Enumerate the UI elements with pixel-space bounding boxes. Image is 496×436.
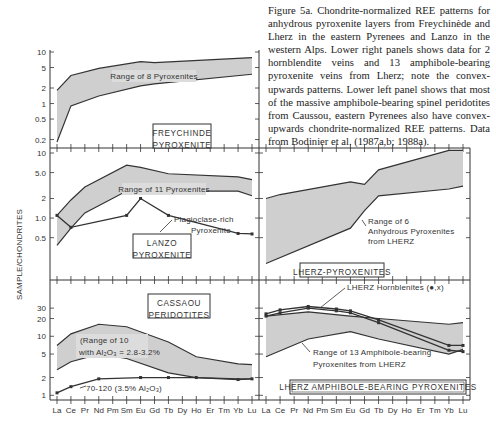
x-tick-label: Sm [121,406,133,415]
y-axis-label: SAMPLE/CHONDRITES [15,209,24,300]
x-tick-label: Ce [275,406,286,415]
annotation: Range of 11 Pyroxenites [118,185,210,194]
x-tick-label: Sm [330,406,342,415]
annotation: from LHERZ [368,237,414,246]
x-tick-label: Nd [303,406,313,415]
y-tick-label: 10 [37,149,46,158]
x-tick-label: Yb [444,406,454,415]
annotation: Pyroxenites from LHERZ [313,360,406,369]
annotation: Range of 6 [368,217,409,226]
x-tick-label: Er [417,406,425,415]
annotation: Plagioclase-rich [174,215,234,224]
y-tick-label: 2 [42,374,47,383]
y-tick-label: 10 [37,48,46,57]
svg-text:LANZO: LANZO [147,239,177,248]
x-tick-label: La [262,406,271,415]
panel-middle-right [266,150,463,263]
x-tick-label: Tb [164,406,174,415]
y-tick-label: 2 [42,84,47,93]
ree-figure: 105210.50.2105.021.00.5302010521SAMPLE/C… [0,0,496,436]
svg-text:PYROXENITE: PYROXENITE [133,251,192,260]
svg-text:FREYCHINDE: FREYCHINDE [152,129,211,138]
x-tick-label: Pr [290,406,298,415]
y-tick-label: 20 [37,315,46,324]
x-tick-label: Eu [346,406,356,415]
y-tick-label: 1 [42,100,47,109]
x-tick-label: Ho [402,406,413,415]
x-tick-label: Er [206,406,214,415]
y-tick-label: 5 [42,64,47,73]
y-tick-label: 1.0 [35,214,47,223]
x-tick-label: Tm [218,406,230,415]
x-tick-label: Ce [66,406,77,415]
y-tick-label: 1 [42,391,47,400]
annotation: Pyroxenite [191,226,231,235]
y-tick-label: 2 [42,194,47,203]
annotation: Range of 13 Amphibole-bearing [313,348,431,357]
annotation: (Range of 10 [80,336,129,345]
x-tick-label: Gd [359,406,370,415]
annotation: 70-120 (3.5% Al₂O₃) [86,384,162,393]
y-tick-label: 10 [37,332,46,341]
annotation: Anhydrous Pyroxenites [368,227,454,236]
x-tick-label: La [53,406,62,415]
y-tick-label: 30 [37,304,46,313]
annotation: LHERZ Hornblenites (●,x) [347,283,444,292]
x-tick-label: Lu [459,406,468,415]
x-tick-label: Eu [136,406,146,415]
svg-text:LHERZ-PYROXENITES: LHERZ-PYROXENITES [293,268,391,277]
annotation: Range of 8 Pyroxenites [110,72,198,81]
x-tick-label: Lu [248,406,257,415]
y-tick-label: 0.5 [35,115,47,124]
svg-text:PYROXENITE: PYROXENITE [153,141,212,150]
x-tick-label: Ho [191,406,202,415]
x-tick-label: Nd [94,406,104,415]
y-tick-label: 0.5 [35,234,47,243]
svg-text:PERIDOTITES: PERIDOTITES [148,311,209,320]
y-tick-label: 5.0 [35,169,47,178]
y-tick-label: 0.2 [35,136,47,145]
y-tick-label: 5 [42,350,47,359]
svg-text:LHERZ AMPHIBOLE-BEARING PYROXE: LHERZ AMPHIBOLE-BEARING PYROXENITES [279,383,477,392]
x-tick-label: Tb [374,406,384,415]
x-tick-label: Tm [429,406,441,415]
svg-text:CASSAOU: CASSAOU [157,299,201,308]
x-tick-label: Pr [81,406,89,415]
x-tick-label: Pm [316,406,328,415]
x-tick-label: Pm [107,406,119,415]
x-tick-label: Gd [149,406,160,415]
x-tick-label: Yb [233,406,243,415]
x-tick-label: Dy [177,406,187,415]
x-tick-label: Dy [388,406,398,415]
annotation: with Al₂O₃ = 2.8-3.2% [78,348,160,357]
